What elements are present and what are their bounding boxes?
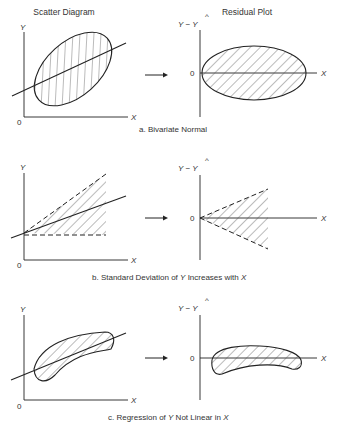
- arrow-c: [145, 356, 168, 361]
- panel-a: Y X 0 Y − Y ^ 0 X a. Bivariate Normal: [12, 12, 327, 134]
- zero-label: 0: [190, 214, 195, 223]
- panel-c: Y X 0 Y − Y ^ 0 X c. Regression of Y Not…: [11, 296, 327, 422]
- x-axis-label: X: [320, 354, 327, 363]
- residual-ellipse: [202, 46, 306, 100]
- y-axis-label: Y: [20, 305, 26, 314]
- curved-band: [34, 332, 114, 381]
- zero-label: 0: [190, 354, 195, 363]
- origin-label: 0: [17, 118, 22, 127]
- origin-label: 0: [17, 261, 22, 270]
- hat-symbol: ^: [205, 296, 209, 305]
- caption-a: a. Bivariate Normal: [139, 125, 207, 134]
- x-axis-label: X: [130, 113, 137, 122]
- residual-y-label: Y − Y: [178, 304, 198, 313]
- hat-symbol: ^: [205, 12, 209, 21]
- fan-region: [200, 189, 268, 249]
- residual-plot-header: Residual Plot: [222, 7, 273, 17]
- residual-a: Y − Y ^ 0 X: [178, 12, 327, 117]
- residual-curved-band: [212, 346, 302, 375]
- x-axis-label: X: [130, 256, 137, 265]
- bivariate-ellipse: [21, 18, 126, 120]
- widening-spread-region: [24, 174, 106, 235]
- residual-y-label: Y − Y: [178, 164, 198, 173]
- x-axis-label: X: [130, 396, 137, 405]
- residual-b: Y − Y ^ 0 X: [178, 156, 327, 260]
- residual-diagram: Scatter Diagram Residual Plot Y X 0 Y − …: [0, 0, 337, 426]
- scatter-a: Y X 0: [12, 18, 137, 127]
- x-axis-label: X: [320, 69, 327, 78]
- caption-b: b. Standard Deviation of Y Increases wit…: [92, 273, 247, 282]
- hat-symbol: ^: [205, 156, 209, 165]
- scatter-b: Y X 0: [11, 163, 137, 270]
- x-axis-label: X: [320, 214, 327, 223]
- panel-b: Y X 0 Y − Y ^ 0 X b. Standard Deviation …: [11, 156, 327, 282]
- scatter-diagram-header: Scatter Diagram: [33, 7, 94, 17]
- scatter-c: Y X 0: [11, 305, 137, 411]
- y-axis-label: Y: [20, 163, 26, 172]
- caption-c: c. Regression of Y Not Linear in X: [108, 413, 229, 422]
- origin-label: 0: [17, 402, 22, 411]
- arrow-b: [145, 216, 168, 221]
- arrow-a: [145, 73, 168, 78]
- zero-label: 0: [190, 69, 195, 78]
- residual-y-label: Y − Y: [178, 20, 198, 29]
- y-axis-label: Y: [20, 23, 26, 32]
- residual-c: Y − Y ^ 0 X: [178, 296, 327, 400]
